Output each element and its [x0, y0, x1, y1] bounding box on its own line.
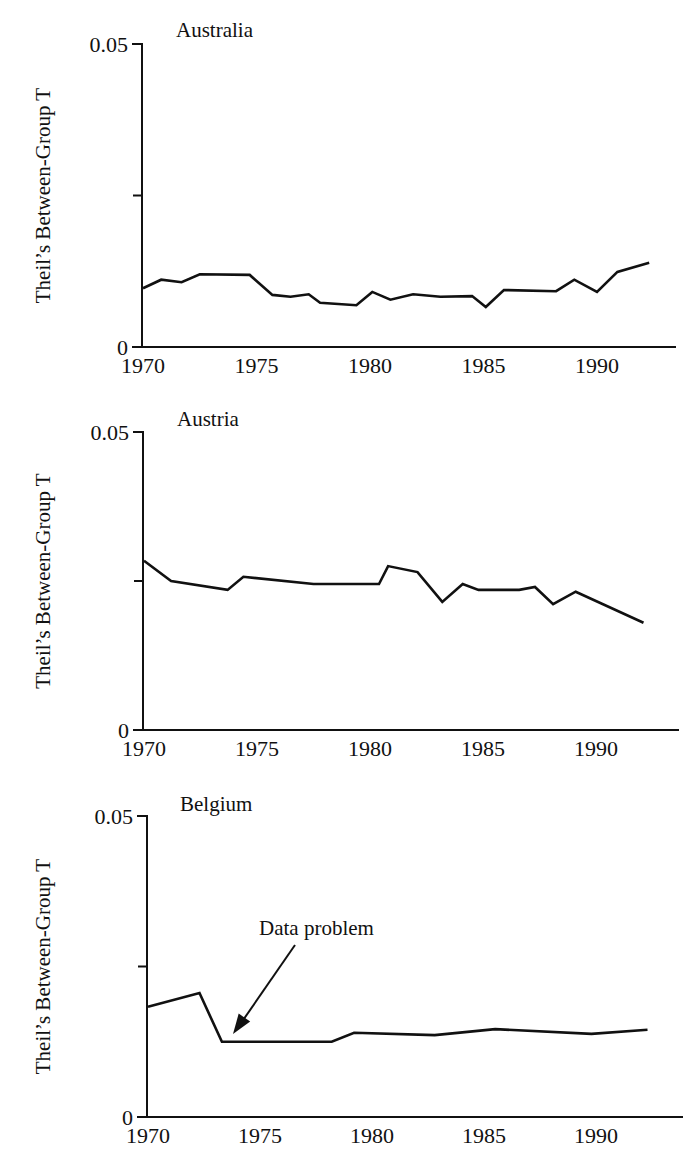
panel-title: Belgium: [180, 792, 252, 816]
chart-panel-austria: AustriaTheil’s Between-Group T0.05019701…: [31, 407, 679, 761]
y-tick-label-top: 0.05: [91, 420, 130, 445]
y-axis-label: Theil’s Between-Group T: [31, 88, 55, 304]
x-tick-label: 1980: [350, 1123, 394, 1148]
x-tick-label: 1975: [238, 1123, 282, 1148]
x-tick-label: 1985: [462, 1123, 506, 1148]
series-line-australia: [143, 263, 649, 307]
annotation-arrow-shaft: [239, 945, 295, 1026]
y-axis-label: Theil’s Between-Group T: [31, 859, 55, 1075]
annotation-label: Data problem: [259, 916, 374, 940]
x-tick-label: 1975: [235, 736, 279, 761]
x-tick-label: 1990: [574, 736, 618, 761]
x-tick-label: 1990: [575, 353, 619, 378]
y-tick-label-top: 0.05: [95, 804, 134, 829]
y-tick-label-top: 0.05: [90, 32, 129, 57]
chart-panel-belgium: BelgiumTheil’s Between-Group T0.05019701…: [31, 792, 683, 1148]
x-tick-label: 1975: [235, 353, 279, 378]
x-tick-label: 1970: [121, 353, 165, 378]
panel-title: Australia: [176, 18, 254, 42]
x-tick-label: 1970: [126, 1123, 170, 1148]
panel-title: Austria: [177, 407, 240, 431]
x-tick-label: 1985: [462, 353, 506, 378]
series-line-belgium: [148, 993, 648, 1042]
x-tick-label: 1970: [122, 736, 166, 761]
x-tick-label: 1980: [348, 736, 392, 761]
figure-canvas: AustraliaTheil’s Between-Group T0.050197…: [0, 0, 700, 1174]
chart-panels: AustraliaTheil’s Between-Group T0.050197…: [31, 18, 683, 1148]
series-line-austria: [144, 561, 644, 623]
chart-panel-australia: AustraliaTheil’s Between-Group T0.050197…: [31, 18, 676, 378]
x-tick-label: 1980: [348, 353, 392, 378]
x-tick-label: 1990: [574, 1123, 618, 1148]
y-axis-label: Theil’s Between-Group T: [31, 473, 55, 689]
x-tick-label: 1985: [461, 736, 505, 761]
arrow-head-icon: [233, 1014, 250, 1034]
